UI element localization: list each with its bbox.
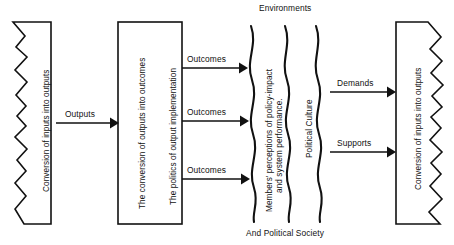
- outcomes-arrow-2-label: Outcomes: [187, 108, 226, 117]
- demands-arrow-head: [387, 87, 396, 98]
- supports-arrow-label: Supports: [337, 139, 371, 148]
- wavy-line-2: [285, 26, 291, 222]
- supports-arrow-head: [387, 147, 396, 158]
- members-perceptions-label-line2: and system performance.: [275, 98, 284, 193]
- outcomes-arrow-1-label: Outcomes: [187, 55, 226, 64]
- right-box-label: Conversion of inputs into outputs: [414, 67, 423, 190]
- outcomes-arrow-3-head: [241, 174, 250, 185]
- middle-box-label-conversion: The conversion of outputs into outcomes: [138, 58, 147, 209]
- middle-box-label-politics: The politics of output implementation: [169, 68, 178, 205]
- members-perceptions-label-line1: Members' perceptions of policy-impact: [265, 69, 274, 212]
- left-box-label: Conversion of inputs into outputs: [42, 69, 51, 192]
- wavy-line-1: [250, 26, 256, 222]
- wavy-line-3: [316, 26, 322, 222]
- diagram-canvas: Conversion of inputs into outputs The co…: [0, 0, 454, 245]
- outcomes-arrow-3-label: Outcomes: [187, 166, 226, 175]
- outcomes-arrow-1-head: [239, 63, 248, 74]
- environments-label: Environments: [259, 4, 311, 13]
- diagram-graphics: [0, 0, 454, 245]
- demands-arrow-label: Demands: [337, 79, 374, 88]
- outcomes-arrow-2-head: [240, 116, 249, 127]
- political-culture-label: Political Culture: [305, 99, 314, 158]
- outputs-arrow-label: Outputs: [65, 110, 95, 119]
- and-political-society-label: And Political Society: [246, 229, 324, 238]
